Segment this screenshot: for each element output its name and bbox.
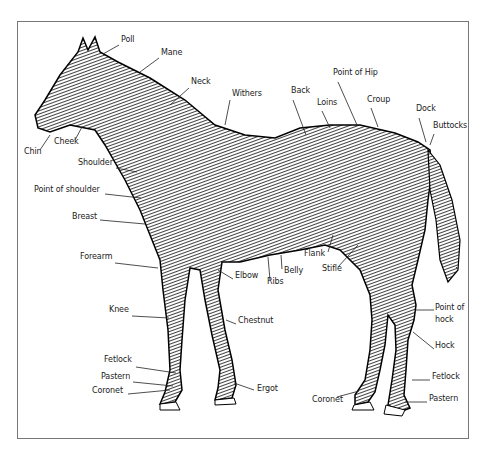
label-cheek: Cheek bbox=[54, 138, 79, 146]
label-fetlock-front: Fetlock bbox=[104, 356, 132, 364]
label-line: Point of bbox=[435, 302, 464, 314]
label-buttocks: Buttocks bbox=[433, 122, 467, 130]
label-hock: Hock bbox=[435, 342, 455, 350]
label-dock: Dock bbox=[416, 105, 436, 113]
label-pastern-hind: Pastern bbox=[429, 395, 458, 403]
hoof bbox=[160, 402, 180, 410]
label-withers: Withers bbox=[232, 90, 262, 98]
label-coronet-hind: Coronet bbox=[312, 396, 343, 404]
horse-tail bbox=[428, 150, 460, 282]
label-breast: Breast bbox=[72, 213, 97, 221]
label-knee: Knee bbox=[109, 306, 129, 314]
label-poll: Poll bbox=[121, 36, 134, 44]
label-point-of-shoulder: Point of shoulder bbox=[34, 186, 100, 194]
label-fetlock-hind: Fetlock bbox=[432, 373, 460, 381]
label-chin: Chin bbox=[24, 148, 42, 156]
label-line: hock bbox=[435, 314, 464, 326]
label-point-of-hip: Point of Hip bbox=[333, 69, 378, 77]
label-forearm: Forearm bbox=[80, 253, 112, 261]
label-ergot: Ergot bbox=[257, 385, 278, 393]
label-pastern-front: Pastern bbox=[101, 373, 130, 381]
horse-illustration bbox=[0, 0, 491, 455]
label-loins: Loins bbox=[317, 99, 337, 107]
label-ribs: Ribs bbox=[267, 278, 284, 286]
label-back: Back bbox=[291, 87, 310, 95]
label-coronet-front: Coronet bbox=[92, 387, 123, 395]
label-mane: Mane bbox=[161, 49, 182, 57]
label-flank: Flank bbox=[304, 250, 325, 258]
label-belly: Belly bbox=[284, 267, 303, 275]
label-chestnut: Chestnut bbox=[238, 317, 273, 325]
label-shoulder: Shoulder bbox=[78, 159, 113, 167]
label-stifle: Stifle bbox=[322, 265, 342, 273]
label-point-of-hock: Point ofhock bbox=[435, 302, 464, 326]
label-croup: Croup bbox=[367, 96, 390, 104]
label-neck: Neck bbox=[191, 78, 211, 86]
label-elbow: Elbow bbox=[235, 272, 258, 280]
